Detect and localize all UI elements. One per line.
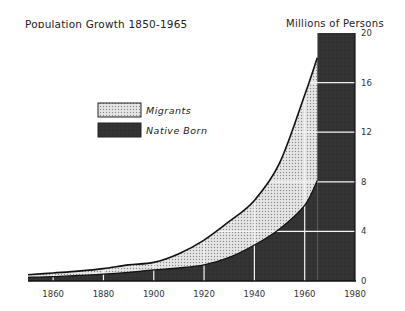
legend-swatch-migrants xyxy=(98,103,141,117)
y-tick-label: 8 xyxy=(361,177,366,187)
x-tick-label: 1960 xyxy=(294,289,316,299)
y-tick-label: 20 xyxy=(361,28,372,38)
x-tick-label: 1880 xyxy=(93,289,115,299)
chart-canvas: 1860188019001920194019601980 048121620 M… xyxy=(0,0,405,311)
projection-band xyxy=(317,33,355,281)
legend-label-migrants: Migrants xyxy=(146,105,191,116)
legend-label-native: Native Born xyxy=(146,125,208,136)
x-tick-label: 1860 xyxy=(42,289,64,299)
y-tick-label: 4 xyxy=(361,226,366,236)
x-tick-label: 1920 xyxy=(193,289,215,299)
y-axis-ticks: 048121620 xyxy=(361,28,372,286)
y-tick-label: 12 xyxy=(361,127,372,137)
x-tick-label: 1980 xyxy=(344,289,366,299)
legend-swatch-native xyxy=(98,123,141,137)
x-axis-ticks: 1860188019001920194019601980 xyxy=(42,289,365,299)
x-tick-label: 1940 xyxy=(244,289,266,299)
x-tick-label: 1900 xyxy=(143,289,165,299)
y-tick-label: 16 xyxy=(361,78,372,88)
y-tick-label: 0 xyxy=(361,276,366,286)
